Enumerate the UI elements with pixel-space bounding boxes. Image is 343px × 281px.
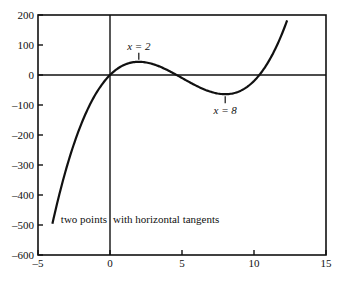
max-label: x = 2 bbox=[126, 40, 151, 52]
y-tick-label: –500 bbox=[11, 219, 35, 231]
x-tick-label: 5 bbox=[179, 257, 185, 269]
y-tick-label: –200 bbox=[11, 129, 35, 141]
caption-left: two points bbox=[61, 213, 107, 225]
y-tick-label: 0 bbox=[29, 69, 35, 81]
y-tick-label: –400 bbox=[11, 189, 35, 201]
y-tick-label: 100 bbox=[18, 39, 35, 51]
min-label: x = 8 bbox=[213, 104, 238, 116]
chart: 2001000–100–200–300–400–500–600–5051015x… bbox=[0, 0, 343, 281]
caption-right: with horizontal tangents bbox=[113, 213, 219, 225]
x-tick-label: 0 bbox=[107, 257, 113, 269]
x-tick-label: 15 bbox=[321, 257, 333, 269]
x-tick-label: –5 bbox=[32, 257, 45, 269]
y-tick-label: –600 bbox=[11, 249, 35, 261]
function-curve bbox=[52, 20, 287, 223]
y-tick-label: 200 bbox=[18, 9, 35, 21]
y-tick-label: –300 bbox=[11, 159, 35, 171]
y-tick-label: –100 bbox=[11, 99, 35, 111]
x-tick-label: 10 bbox=[249, 257, 261, 269]
